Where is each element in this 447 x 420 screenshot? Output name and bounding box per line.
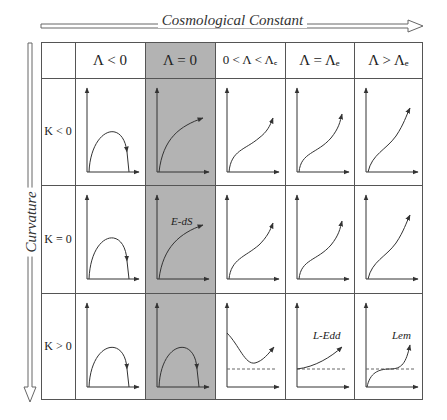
curve-label-eds: E-dS xyxy=(170,215,193,227)
column-header-lambda-einstein: Λ = Λₑ xyxy=(285,42,354,78)
plot-inflecting-expansion xyxy=(354,185,423,293)
column-header-lambda-negative: Λ < 0 xyxy=(75,42,145,78)
plot-recollapse xyxy=(75,78,145,185)
horizontal-axis-label: Cosmological Constant xyxy=(0,12,447,29)
row-header-k-negative: K < 0 xyxy=(41,78,75,185)
plot-inflecting-expansion xyxy=(285,185,354,293)
plot-recollapse xyxy=(145,293,215,400)
plot-inflecting-expansion xyxy=(215,78,285,185)
vertical-axis-label: Curvature xyxy=(23,187,40,256)
plot-recollapse xyxy=(75,185,145,293)
row-header-k-zero: K = 0 xyxy=(41,185,75,293)
column-header-lambda-super-einstein: Λ > Λₑ xyxy=(354,42,423,78)
curve-label-lem: Lem xyxy=(391,329,411,341)
plot-decelerating-expansion xyxy=(145,78,215,185)
plot-inflecting-expansion xyxy=(215,185,285,293)
plot-recollapse xyxy=(75,293,145,400)
plot-lemaitre-eddington: L-Edd xyxy=(285,293,354,400)
plot-einstein-de-sitter: E-dS xyxy=(145,185,215,293)
column-header-lambda-zero: Λ = 0 xyxy=(145,42,215,78)
curve-label-l-edd: L-Edd xyxy=(312,329,341,341)
plot-inflecting-expansion xyxy=(285,78,354,185)
plot-loitering-lemaitre: Lem xyxy=(354,293,423,400)
plot-bounce xyxy=(215,293,285,400)
plot-inflecting-expansion xyxy=(354,78,423,185)
row-header-k-positive: K > 0 xyxy=(41,293,75,400)
column-header-lambda-sub-einstein: 0 < Λ < Λₑ xyxy=(215,42,285,78)
